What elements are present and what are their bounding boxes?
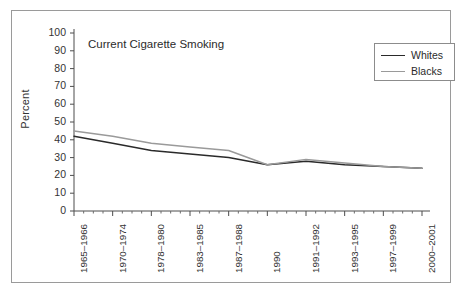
y-tick-label: 90 [40,44,66,56]
x-tick-label: 1978–1980 [155,224,166,273]
legend: Whites Blacks [374,43,455,81]
legend-entry-blacks: Blacks [381,64,442,78]
y-tick-label: 100 [40,26,66,38]
y-tick-label: 30 [40,151,66,163]
y-tick-label: 70 [40,79,66,91]
chart-title: Current Cigarette Smoking [88,38,224,50]
series-line-whites [74,136,422,168]
x-tick-label: 1993–1995 [349,224,360,273]
series-line-blacks [74,131,422,168]
y-tick-label: 50 [40,115,66,127]
y-tick-label: 0 [40,204,66,216]
legend-entry-whites: Whites [381,48,443,62]
x-tick-label: 1997–1999 [387,224,398,273]
x-tick-label: 1965–1966 [78,224,89,273]
legend-label-whites: Whites [411,50,443,61]
x-tick-label: 1987–1988 [233,224,244,273]
x-tick-label: 1970–1974 [117,224,128,273]
chart-frame: Percent Current Cigarette Smoking 010203… [11,10,451,283]
figure: Percent Current Cigarette Smoking 010203… [0,0,462,295]
x-tick-label: 1991–1992 [310,224,321,273]
y-axis-label: Percent [19,64,31,154]
x-tick-label: 2000–2001 [426,224,437,273]
x-tick-label: 1983–1985 [194,224,205,273]
legend-swatch-whites [381,55,405,56]
legend-swatch-blacks [381,71,405,72]
y-tick-label: 10 [40,186,66,198]
legend-label-blacks: Blacks [411,66,442,77]
y-tick-label: 80 [40,62,66,74]
x-tick-label: 1990 [271,251,282,273]
y-tick-label: 40 [40,133,66,145]
y-tick-label: 20 [40,168,66,180]
y-tick-label: 60 [40,97,66,109]
